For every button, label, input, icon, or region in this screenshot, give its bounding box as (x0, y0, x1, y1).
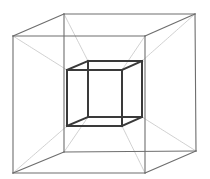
inner-cube-depth-edge (67, 117, 88, 126)
connector-edge (64, 14, 88, 61)
outer-cube-back-edge (64, 151, 196, 152)
tesseract-figure (0, 0, 210, 179)
connector-edge (13, 126, 67, 173)
inner-cube-depth-edge (122, 117, 142, 126)
outer-cube-back-edge (195, 14, 196, 151)
outer-cube-depth-edge (13, 14, 64, 36)
outer-cube-depth-edge (13, 152, 64, 173)
inner-cube (67, 61, 142, 126)
tesseract-diagram (0, 0, 210, 179)
connector-edge (142, 117, 196, 151)
connector-edge (122, 126, 145, 173)
connector-edge (142, 14, 195, 61)
inner-cube-depth-edge (67, 61, 88, 70)
outer-cube-depth-edge (145, 151, 196, 173)
connector-edge (13, 36, 67, 70)
outer-cube-depth-edge (145, 14, 195, 36)
connector-edges (13, 14, 196, 173)
